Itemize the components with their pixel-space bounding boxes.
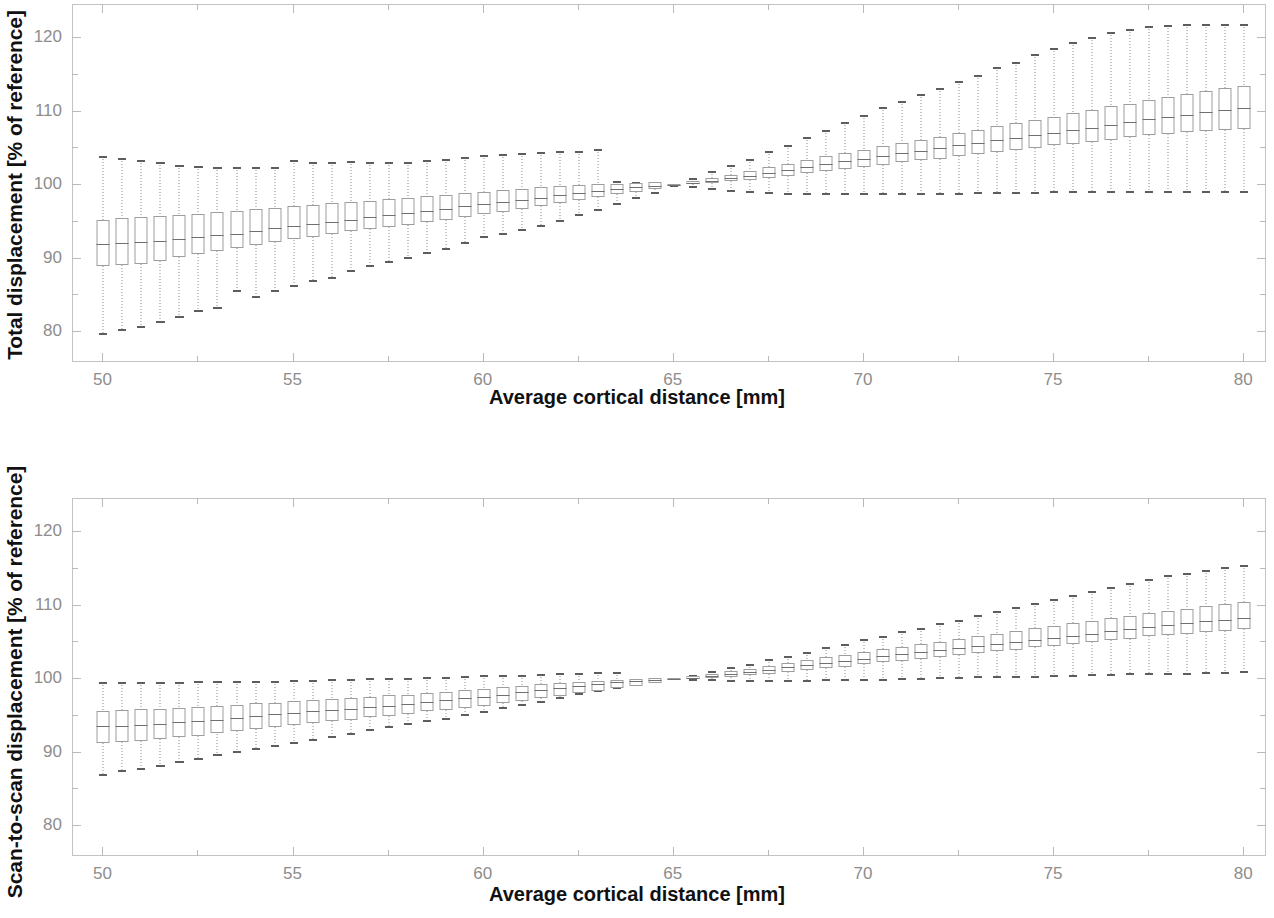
whisker-cap-upper xyxy=(118,682,126,684)
whisker-cap-upper xyxy=(993,611,1001,613)
whisker-cap-upper xyxy=(1050,48,1058,50)
whisker-cap-upper xyxy=(917,628,925,630)
boxplot-box xyxy=(458,5,471,361)
boxplot-box xyxy=(895,5,908,361)
median-line xyxy=(1048,638,1061,639)
x-tick-minor-top xyxy=(197,4,198,10)
whisker-upper xyxy=(1054,48,1055,116)
whisker-cap-lower xyxy=(518,229,526,231)
whisker-cap-lower xyxy=(727,680,735,682)
box-iqr xyxy=(496,190,509,211)
box-iqr xyxy=(1105,106,1118,139)
boxplot-box xyxy=(1029,499,1042,855)
boxplot-box xyxy=(268,499,281,855)
y-tick-label: 120 xyxy=(14,521,62,541)
whisker-cap-upper xyxy=(784,656,792,658)
box-iqr xyxy=(325,203,338,234)
median-line xyxy=(401,704,414,705)
whisker-cap-upper xyxy=(1069,42,1077,44)
whisker-cap-upper xyxy=(1031,54,1039,56)
median-line xyxy=(952,648,965,649)
median-line xyxy=(819,164,832,165)
median-line xyxy=(743,672,756,673)
whisker-lower xyxy=(997,651,998,678)
whisker-cap-upper xyxy=(309,162,317,164)
whisker-cap-upper xyxy=(613,181,621,183)
whisker-cap-upper xyxy=(404,162,412,164)
boxplot-box xyxy=(439,5,452,361)
whisker-upper xyxy=(502,154,503,190)
whisker-lower xyxy=(844,169,845,195)
whisker-cap-lower xyxy=(213,754,221,756)
median-line xyxy=(249,716,262,717)
box-iqr xyxy=(1067,113,1080,144)
boxplot-box xyxy=(496,5,509,361)
whisker-cap-lower xyxy=(556,697,564,699)
boxplot-box xyxy=(116,5,129,361)
whisker-upper xyxy=(236,681,237,705)
median-line xyxy=(1086,128,1099,129)
whisker-cap-upper xyxy=(213,681,221,683)
boxplot-box xyxy=(933,5,946,361)
box-iqr xyxy=(1181,609,1194,634)
whisker-upper xyxy=(103,156,104,220)
whisker-cap-lower xyxy=(1202,672,1210,674)
whisker-cap-lower xyxy=(99,333,107,335)
whisker-lower xyxy=(179,737,180,763)
whisker-upper xyxy=(901,101,902,143)
median-line xyxy=(154,241,167,242)
median-line xyxy=(154,724,167,725)
median-line xyxy=(667,185,680,186)
whisker-cap-lower xyxy=(461,242,469,244)
median-line xyxy=(781,170,794,171)
y-tick-major xyxy=(72,825,81,826)
median-line xyxy=(116,243,129,244)
boxplot-box xyxy=(515,499,528,855)
x-tick-major-top xyxy=(293,498,294,507)
plot-area-top xyxy=(72,4,1266,362)
whisker-cap-upper xyxy=(518,153,526,155)
whisker-cap-upper xyxy=(175,165,183,167)
whisker-lower xyxy=(1016,650,1017,678)
median-line xyxy=(762,173,775,174)
whisker-cap-upper xyxy=(480,675,488,677)
whisker-lower xyxy=(1111,640,1112,676)
whisker-cap-upper xyxy=(746,664,754,666)
x-tick-minor-top xyxy=(958,4,959,10)
box-iqr xyxy=(268,208,281,243)
boxplot-box xyxy=(1105,5,1118,361)
whisker-upper xyxy=(217,681,218,705)
whisker-cap-lower xyxy=(461,714,469,716)
whisker-upper xyxy=(407,678,408,695)
boxplot-box xyxy=(743,499,756,855)
whisker-cap-upper xyxy=(613,672,621,674)
y-tick-major xyxy=(72,258,81,259)
median-line xyxy=(762,670,775,671)
boxplot-box xyxy=(648,5,661,361)
whisker-lower xyxy=(1130,137,1131,193)
whisker-cap-lower xyxy=(347,270,355,272)
whisker-upper xyxy=(464,676,465,690)
whisker-upper xyxy=(274,681,275,703)
whisker-lower xyxy=(445,220,446,250)
boxplot-box xyxy=(477,499,490,855)
box-iqr xyxy=(1200,91,1213,131)
median-line xyxy=(972,646,985,647)
y-tick-minor-right xyxy=(1260,641,1266,642)
x-tick-major-bottom xyxy=(863,353,864,362)
whisker-cap-lower xyxy=(442,248,450,250)
y-tick-minor xyxy=(72,568,78,569)
box-iqr xyxy=(1219,604,1232,630)
whisker-upper xyxy=(1244,24,1245,86)
whisker-upper xyxy=(331,162,332,203)
median-line xyxy=(1029,135,1042,136)
whisker-cap-upper xyxy=(936,88,944,90)
whisker-lower xyxy=(274,242,275,291)
whisker-cap-lower xyxy=(347,733,355,735)
boxplot-box xyxy=(287,499,300,855)
whisker-cap-lower xyxy=(385,261,393,263)
boxplot-box xyxy=(1238,5,1251,361)
whisker-lower xyxy=(217,734,218,757)
boxplot-box xyxy=(553,5,566,361)
whisker-cap-lower xyxy=(366,729,374,731)
